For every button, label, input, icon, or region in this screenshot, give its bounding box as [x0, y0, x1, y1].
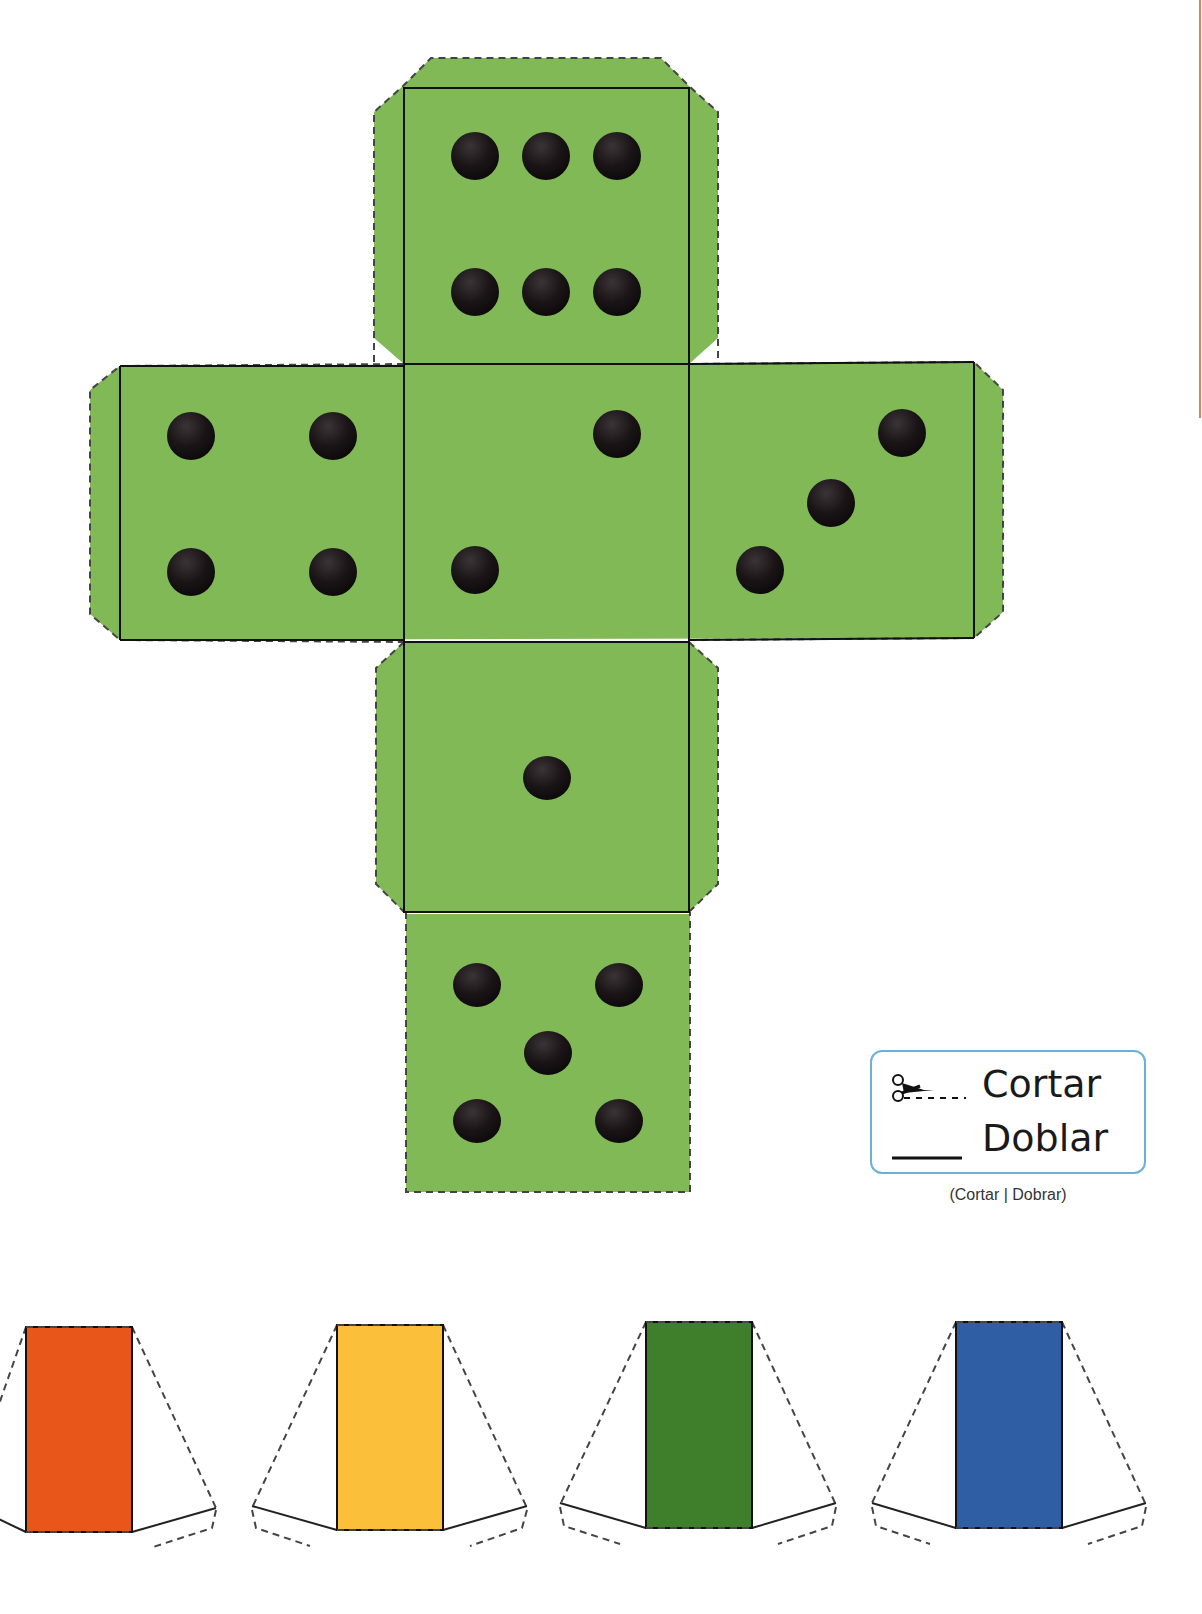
legend-cut-label: Cortar	[982, 1062, 1101, 1106]
solid-line-icon	[890, 1122, 970, 1162]
face-one	[523, 756, 571, 800]
legend-fold-row: Doblar	[872, 1112, 1144, 1168]
cone-blue	[872, 1322, 1146, 1544]
die-net	[90, 58, 1003, 1192]
legend-cut-row: Cortar	[872, 1058, 1144, 1114]
top-face-tab-shape	[374, 58, 718, 364]
middle-band-shape	[90, 362, 1003, 640]
legend-fold-label: Doblar	[982, 1116, 1108, 1160]
page-edge-line	[1199, 0, 1201, 418]
legend-box: Cortar Doblar	[870, 1050, 1146, 1174]
cone-yellow	[252, 1325, 527, 1546]
scissors-icon	[890, 1068, 970, 1108]
cone-templates	[0, 1322, 1146, 1548]
cone-orange	[0, 1327, 216, 1548]
legend-caption: (Cortar | Dobrar)	[870, 1186, 1146, 1204]
die-template-canvas	[0, 0, 1202, 1614]
cone-green	[560, 1322, 836, 1544]
